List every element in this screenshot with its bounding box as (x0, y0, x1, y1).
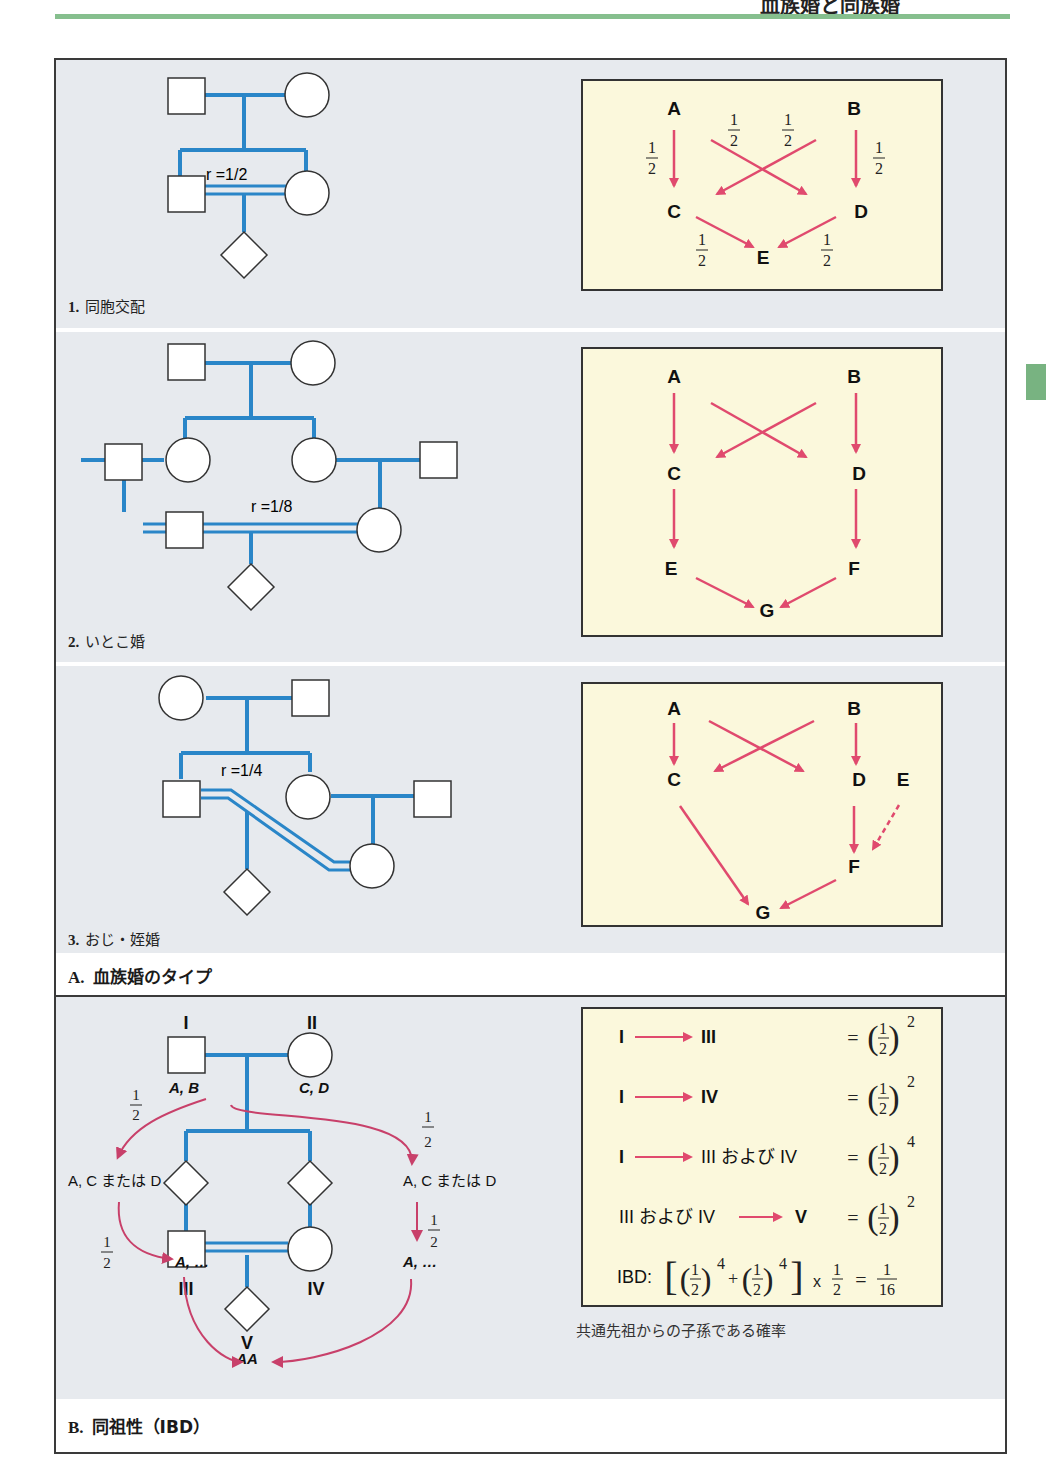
svg-text:B: B (847, 98, 861, 119)
svg-text:=: = (847, 1087, 858, 1109)
svg-text:C: C (667, 201, 681, 222)
svg-text:]: ] (790, 1254, 803, 1299)
female-symbol (285, 171, 329, 215)
svg-text:(: ( (867, 1079, 878, 1117)
svg-text:1: 1 (883, 1261, 891, 1278)
svg-text:V: V (795, 1207, 807, 1227)
svg-text:A: A (667, 98, 681, 119)
svg-text:B: B (847, 698, 861, 719)
svg-text:4: 4 (907, 1133, 915, 1150)
section-b-caption-bar: B.同祖性（IBD） (56, 1399, 1005, 1452)
panel-uncle-niece-marriage: r =1/4 AB CDE F G 3.おじ・姪婚 (56, 666, 1005, 953)
panel-label: 1.同胞交配 (68, 295, 145, 316)
svg-text:G: G (756, 902, 771, 923)
svg-text:2: 2 (648, 160, 656, 177)
svg-text:2: 2 (784, 132, 792, 149)
svg-text:(: ( (867, 1019, 878, 1057)
ibd-footnote: 共通先祖からの子孫である確率 (576, 1319, 786, 1340)
panel-cousin-marriage: r =1/8 AB CD EF G 2.いとこ婚 (56, 332, 1005, 662)
svg-text:A, …: A, … (174, 1253, 209, 1270)
svg-text:(: ( (867, 1139, 878, 1177)
svg-text:A, …: A, … (402, 1253, 437, 1270)
svg-text:1: 1 (879, 1080, 887, 1097)
svg-text:2: 2 (103, 1255, 111, 1271)
svg-text:2: 2 (879, 1040, 887, 1057)
svg-text:1: 1 (879, 1140, 887, 1157)
svg-text:III および IV: III および IV (619, 1207, 715, 1227)
header-rule (55, 14, 1010, 19)
svg-text:1: 1 (879, 1020, 887, 1037)
svg-text:1: 1 (648, 139, 656, 156)
svg-text:2: 2 (424, 1134, 432, 1150)
svg-text:): ) (763, 1261, 774, 1297)
svg-text:2: 2 (698, 252, 706, 269)
svg-text:r =1/4: r =1/4 (221, 762, 262, 779)
pedigree-ibd: I II III IV V A, B C, D AA A, C または D A,… (56, 997, 556, 1399)
svg-text:C: C (667, 769, 681, 790)
svg-text:IV: IV (701, 1087, 718, 1107)
svg-text:2: 2 (907, 1193, 915, 1210)
svg-text:D: D (852, 769, 866, 790)
path-diagram-uncle-niece: AB CDE F G (581, 682, 943, 927)
svg-text:1: 1 (430, 1212, 438, 1228)
figure-frame: r =1/2 AB CD E (54, 58, 1007, 1454)
path-diagram-sibling: AB CD E 12 12 12 12 12 12 (581, 79, 943, 291)
svg-text:1: 1 (698, 231, 706, 248)
svg-text:2: 2 (879, 1220, 887, 1237)
svg-text:=: = (847, 1207, 858, 1229)
chapter-side-tab (1026, 364, 1046, 400)
svg-text:2: 2 (823, 252, 831, 269)
svg-text:E: E (897, 769, 910, 790)
svg-text:r =1/2: r =1/2 (206, 166, 247, 183)
svg-text:1: 1 (132, 1087, 140, 1103)
child-diamond (221, 232, 267, 278)
svg-text:IBD:: IBD: (617, 1267, 652, 1287)
svg-text:1: 1 (103, 1234, 111, 1250)
svg-text:F: F (848, 856, 860, 877)
svg-text:): ) (888, 1139, 899, 1177)
svg-text:1: 1 (424, 1109, 432, 1125)
svg-text:): ) (888, 1079, 899, 1117)
svg-text:A, C または D: A, C または D (68, 1172, 162, 1189)
svg-text:x: x (813, 1273, 821, 1290)
svg-text:2: 2 (833, 1281, 841, 1298)
svg-text:2: 2 (879, 1100, 887, 1117)
svg-text:(: ( (680, 1261, 691, 1297)
svg-text:): ) (701, 1261, 712, 1297)
panel-label: 3.おじ・姪婚 (68, 928, 160, 949)
svg-text:16: 16 (879, 1281, 895, 1298)
svg-text:III および IV: III および IV (701, 1147, 797, 1167)
svg-text:E: E (665, 558, 678, 579)
svg-text:E: E (757, 247, 770, 268)
svg-text:A: A (667, 366, 681, 387)
male-symbol (168, 78, 205, 114)
panel-sibling-mating: r =1/2 AB CD E (56, 60, 1005, 328)
svg-text:A, C または D: A, C または D (403, 1172, 497, 1189)
svg-text:D: D (854, 201, 868, 222)
svg-text:(: ( (867, 1199, 878, 1237)
section-a-caption: A.血族婚のタイプ (68, 963, 212, 988)
svg-text:=: = (855, 1269, 866, 1291)
svg-text:2: 2 (730, 132, 738, 149)
svg-text:2: 2 (132, 1107, 140, 1123)
svg-text:4: 4 (779, 1255, 787, 1272)
svg-text:AA: AA (235, 1350, 258, 1367)
svg-text:1: 1 (875, 139, 883, 156)
svg-text:2: 2 (907, 1013, 915, 1030)
svg-text:4: 4 (717, 1255, 725, 1272)
svg-text:F: F (848, 558, 860, 579)
svg-text:A, B: A, B (168, 1079, 199, 1096)
svg-text:C: C (667, 463, 681, 484)
svg-text:D: D (852, 463, 866, 484)
svg-text:1: 1 (823, 231, 831, 248)
svg-text:+: + (728, 1269, 738, 1289)
svg-text:I: I (183, 1013, 188, 1033)
panel-ibd: I II III IV V A, B C, D AA A, C または D A,… (56, 997, 1005, 1399)
svg-text:2: 2 (907, 1073, 915, 1090)
svg-text:G: G (760, 600, 775, 621)
section-b-caption: B.同祖性（IBD） (68, 1413, 210, 1438)
svg-text:r =1/8: r =1/8 (251, 498, 292, 515)
svg-text:A: A (667, 698, 681, 719)
panel-label: 2.いとこ婚 (68, 630, 145, 651)
svg-text:=: = (847, 1027, 858, 1049)
